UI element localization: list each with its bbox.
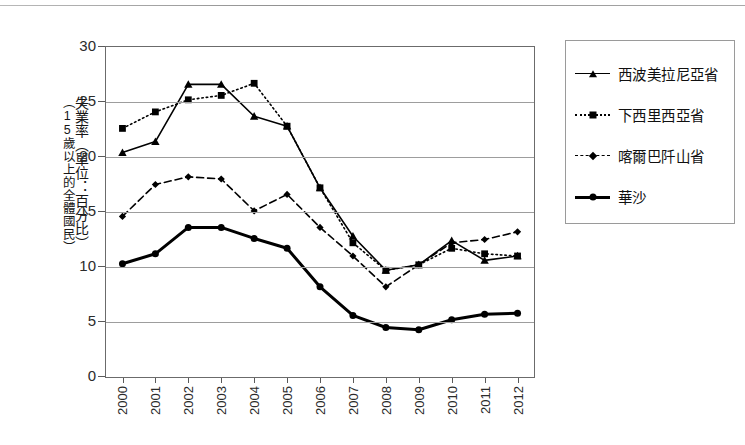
x-tick-mark-2000	[123, 378, 124, 383]
x-tick-label-2008: 2008	[379, 386, 394, 415]
x-tick-label-2010: 2010	[445, 386, 460, 415]
data-point	[317, 283, 324, 290]
series-line	[122, 84, 517, 270]
series-1	[119, 80, 521, 274]
y-tick-mark-30	[98, 46, 105, 47]
x-tick-mark-2011	[485, 378, 486, 383]
legend-label: 華沙	[618, 186, 647, 207]
legend-swatch-lower-silesia	[575, 109, 610, 121]
legend-label: 下西里西亞省	[618, 104, 704, 125]
data-point	[185, 173, 192, 180]
x-tick-label-2012: 2012	[511, 386, 526, 415]
data-point	[514, 228, 521, 235]
series-line	[122, 227, 517, 329]
data-point	[251, 235, 258, 242]
x-tick-label-2009: 2009	[412, 386, 427, 415]
data-point	[350, 239, 357, 246]
legend-item[interactable]: 西波美拉尼亞省	[566, 53, 734, 94]
data-point	[151, 137, 159, 145]
legend-item[interactable]: 下西里西亞省	[566, 94, 734, 135]
unemployment-rate-line-chart: 失業率（單位：百分比） （15歲以上的全體國民） 051015202530 20…	[0, 0, 745, 445]
data-point	[119, 125, 126, 132]
x-tick-label-2004: 2004	[247, 386, 262, 415]
x-tick-label-2003: 2003	[214, 386, 229, 415]
y-tick-mark-20	[98, 156, 105, 157]
legend-label: 西波美拉尼亞省	[618, 63, 719, 84]
x-tick-label-2000: 2000	[115, 386, 130, 415]
legend-swatch-west-pomerania	[575, 68, 610, 80]
x-tick-label-2001: 2001	[148, 386, 163, 415]
x-tick-mark-2010	[452, 378, 453, 383]
x-tick-mark-2012	[518, 378, 519, 383]
y-tick-label-20: 20	[62, 148, 96, 163]
y-tick-label-15: 15	[62, 203, 96, 218]
data-point	[152, 109, 159, 116]
data-point	[284, 245, 291, 252]
legend-item[interactable]: 喀爾巴阡山省	[566, 135, 734, 176]
x-tick-label-2006: 2006	[313, 386, 328, 415]
data-point	[481, 250, 488, 257]
data-point	[382, 324, 389, 331]
x-tick-mark-2004	[254, 378, 255, 383]
data-point	[481, 236, 488, 243]
data-point	[218, 92, 225, 99]
data-point	[514, 253, 521, 260]
x-tick-mark-2009	[419, 378, 420, 383]
gridline-10	[106, 267, 534, 268]
data-point	[185, 224, 192, 231]
x-tick-mark-2001	[155, 378, 156, 383]
chart-legend: 西波美拉尼亞省 下西里西亞省 喀爾巴阡山省 華沙	[565, 40, 735, 224]
data-point	[284, 123, 291, 130]
data-point	[152, 250, 159, 257]
y-tick-mark-15	[98, 211, 105, 212]
data-point	[317, 184, 324, 191]
data-point	[349, 312, 356, 319]
x-tick-label-2002: 2002	[181, 386, 196, 415]
series-3	[119, 224, 521, 333]
x-tick-label-2011: 2011	[478, 386, 493, 414]
y-tick-mark-25	[98, 101, 105, 102]
series-0	[118, 80, 521, 273]
data-point	[514, 310, 521, 317]
gridline-5	[106, 322, 534, 323]
gridline-15	[106, 212, 534, 213]
y-tick-label-0: 0	[62, 368, 96, 383]
series-line	[122, 83, 517, 270]
legend-item[interactable]: 華沙	[566, 176, 734, 217]
x-tick-mark-2007	[353, 378, 354, 383]
gridline-20	[106, 157, 534, 158]
data-point	[481, 311, 488, 318]
y-tick-label-10: 10	[62, 258, 96, 273]
x-tick-mark-2008	[386, 378, 387, 383]
legend-swatch-subcarpathia	[575, 150, 610, 162]
data-point	[152, 181, 159, 188]
x-tick-mark-2006	[320, 378, 321, 383]
legend-swatch-warsaw	[575, 191, 610, 203]
data-point	[218, 224, 225, 231]
data-point	[251, 80, 258, 87]
y-tick-mark-10	[98, 266, 105, 267]
x-tick-label-2005: 2005	[280, 386, 295, 415]
gridline-25	[106, 102, 534, 103]
x-tick-mark-2005	[287, 378, 288, 383]
x-tick-mark-2003	[221, 378, 222, 383]
y-tick-mark-5	[98, 321, 105, 322]
y-tick-label-5: 5	[62, 313, 96, 328]
x-tick-mark-2002	[188, 378, 189, 383]
y-tick-label-25: 25	[62, 93, 96, 108]
y-tick-label-30: 30	[62, 38, 96, 53]
legend-label: 喀爾巴阡山省	[618, 145, 704, 166]
x-tick-label-2007: 2007	[346, 386, 361, 415]
y-tick-mark-0	[98, 376, 105, 377]
data-point	[415, 326, 422, 333]
plot-area	[105, 46, 535, 378]
